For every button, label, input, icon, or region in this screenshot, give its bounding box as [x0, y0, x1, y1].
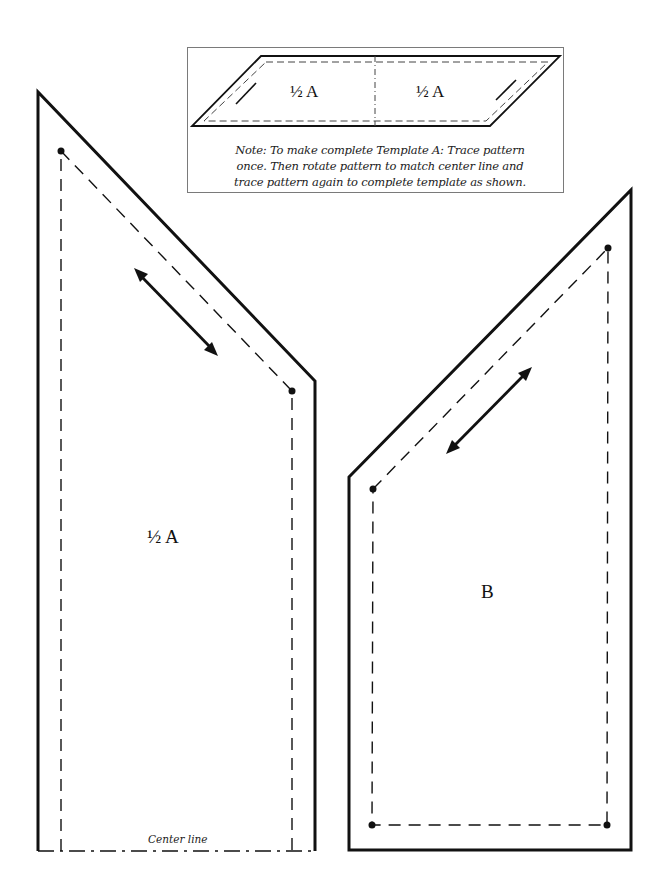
seam-dot — [605, 245, 612, 252]
template-a-cut-line — [38, 92, 315, 851]
note-line: trace pattern again to complete template… — [230, 174, 530, 190]
grain-arrow-icon — [452, 373, 526, 448]
note-line: Note: To make complete Template A: Trace… — [230, 142, 530, 158]
seam-dot — [289, 388, 296, 395]
seam-dot — [370, 486, 377, 493]
template-half-a — [38, 92, 315, 851]
template-a-label: ½ A — [147, 526, 179, 548]
template-a-seam-line — [61, 151, 292, 851]
seam-dot — [369, 822, 376, 829]
center-line-label: Center line — [148, 833, 208, 845]
template-b-cut-line — [349, 190, 631, 850]
note-line: once. Then rotate pattern to match cente… — [230, 158, 530, 174]
template-b — [349, 190, 631, 850]
note-text: Note: To make complete Template A: Trace… — [230, 142, 530, 190]
template-b-label: B — [481, 581, 494, 603]
grain-arrow-icon — [140, 275, 212, 349]
diagram-label-right: ½ A — [416, 82, 444, 102]
diagram-label-left: ½ A — [290, 82, 318, 102]
seam-dot — [604, 822, 611, 829]
